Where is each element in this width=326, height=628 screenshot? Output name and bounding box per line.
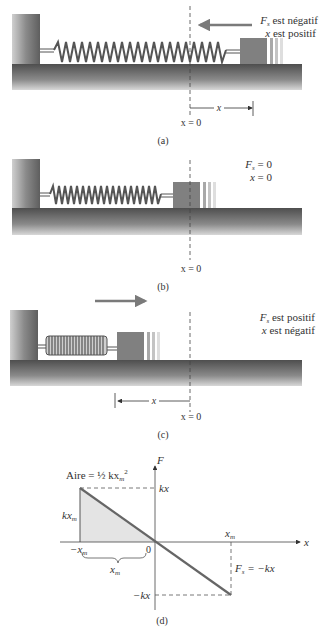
floor <box>10 360 302 386</box>
block <box>240 38 267 64</box>
area-label: Aire = ½ kxm2 <box>66 468 128 483</box>
kxm-label: kxm <box>62 509 77 523</box>
panel-caption: (a) <box>157 135 168 147</box>
displacement-label: x <box>216 102 222 113</box>
zero-label: 0 <box>146 544 151 555</box>
motion-stripe <box>152 332 155 360</box>
displacement-state-text: x est positif <box>264 27 316 39</box>
panel-b: Fs = 0 x = 0 x = 0 (b) <box>12 158 302 293</box>
motion-stripe <box>270 38 273 64</box>
floor <box>12 208 302 235</box>
motion-stripe <box>208 182 211 208</box>
x-axis-label: x <box>303 536 309 548</box>
displacement-state-text: x est négatif <box>261 324 315 336</box>
neg-kx-label: −kx <box>133 589 150 601</box>
panel-caption: (c) <box>157 429 168 441</box>
panel-a: Fs est négatif x est positif x x = 0 (a) <box>12 6 318 147</box>
motion-stripe <box>213 182 216 208</box>
motion-stripe <box>203 182 206 208</box>
hooke-law-label: Fs = −kx <box>234 562 275 576</box>
panel-c: Fs est positif x est négatif x x = 0 (c) <box>10 301 315 441</box>
spring-stretched <box>40 42 240 62</box>
motion-stripe <box>275 38 278 64</box>
displacement-state-text: x = 0 <box>249 171 273 183</box>
origin-label: x = 0 <box>181 263 202 274</box>
pos-xm-label: xm <box>224 527 235 541</box>
force-state-text: Fs = 0 <box>244 158 272 172</box>
force-displacement-graph: F x Aire = ½ kxm2 kx kxm −xm 0 xm xm Fs … <box>60 454 309 627</box>
origin-label: x = 0 <box>181 411 202 422</box>
motion-stripe <box>157 332 160 360</box>
panel-caption: (d) <box>156 615 168 627</box>
neg-xm-label: −xm <box>70 543 87 557</box>
block <box>173 182 200 208</box>
force-state-text: Fs est négatif <box>259 14 318 28</box>
brace-xm-label: xm <box>109 563 120 577</box>
force-state-text: Fs est positif <box>259 311 316 325</box>
kx-label: kx <box>159 482 169 494</box>
motion-stripe <box>280 38 283 64</box>
spring-force-diagram: Fs est négatif x est positif x x = 0 (a)… <box>0 0 326 628</box>
motion-stripe <box>147 332 150 360</box>
spring-relaxed <box>40 186 173 204</box>
xm-brace <box>82 553 146 563</box>
displacement-label: x <box>151 395 157 406</box>
spring-compressed <box>38 336 117 355</box>
floor <box>12 64 302 90</box>
panel-caption: (b) <box>157 281 169 293</box>
y-axis-label: F <box>156 454 164 466</box>
origin-label: x = 0 <box>181 117 202 128</box>
block <box>117 332 144 360</box>
